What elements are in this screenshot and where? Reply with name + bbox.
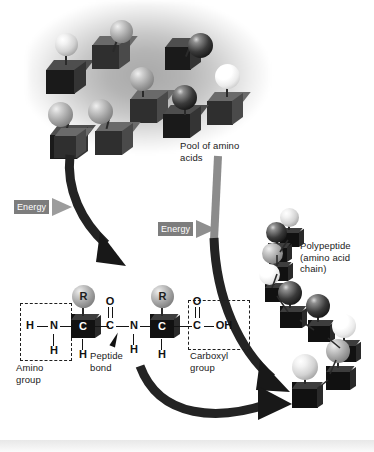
side-chain-sphere — [110, 20, 133, 43]
amino-acid-cube — [46, 60, 86, 94]
chain-cube — [326, 366, 350, 390]
chain-sphere — [332, 314, 356, 338]
carboxyl-oxygen: O — [191, 296, 203, 307]
pool-label: Pool of amino acids — [180, 140, 266, 163]
arrow-pool-to-chain-head — [256, 360, 290, 392]
chain-sphere — [306, 294, 330, 318]
bond-h-n — [37, 326, 48, 327]
amino-h-left: H — [24, 320, 36, 331]
side-chain-sphere — [172, 85, 197, 110]
carbonyl-oxygen: O — [104, 296, 116, 307]
carboxyl-group-label: Carboxyl group — [190, 350, 248, 373]
side-chain-sphere — [48, 102, 73, 127]
pool-unit — [163, 105, 201, 138]
alpha-h-1: H — [77, 349, 89, 360]
amino-acid-cube — [95, 122, 133, 155]
chain-cube — [280, 306, 302, 328]
arrow-pool-to-molecule — [69, 155, 106, 244]
amino-group-label: Amino group — [16, 362, 66, 385]
arrow-molecule-to-chain — [140, 366, 268, 413]
chain-sphere — [326, 339, 350, 363]
double-bond-b-2 — [199, 307, 200, 318]
chain-sphere — [266, 222, 287, 243]
bond-calpha-ccarboxyl — [174, 326, 192, 327]
pool-unit — [46, 60, 86, 94]
polypeptide-label: Polypeptide (amino acid chain) — [300, 240, 374, 275]
side-chain-sphere — [88, 99, 113, 124]
carbonyl-carbon: C — [104, 320, 116, 331]
pool-unit — [54, 128, 86, 158]
double-bond-b-1 — [112, 307, 113, 318]
energy-arrow-right — [196, 220, 216, 238]
footer-band — [0, 440, 374, 452]
arrow-pool-to-molecule-head — [96, 232, 126, 266]
peptide-bond-pointer — [109, 331, 120, 347]
pool-unit — [95, 122, 133, 155]
carboxyl-hydroxyl: OH — [213, 320, 235, 331]
arrow-molecule-to-chain-head — [258, 386, 292, 420]
alpha-carbon-label-1: C — [73, 321, 93, 332]
peptide-nitrogen: N — [128, 320, 140, 331]
side-chain-sphere — [55, 33, 78, 56]
r-group-label-1: R — [73, 291, 94, 302]
chain-sphere — [278, 281, 302, 305]
side-chain-sphere — [130, 67, 154, 91]
amino-h-bottom: H — [48, 345, 60, 356]
amino-acid-cube — [207, 92, 243, 125]
chain-cube — [308, 320, 330, 342]
chain-sphere — [262, 243, 283, 264]
arrow-pool-to-chain-upper — [214, 156, 218, 240]
pool-unit — [207, 92, 243, 125]
double-bond-a-1 — [108, 307, 109, 318]
side-chain-sphere — [188, 33, 213, 58]
amino-acid-cube — [54, 128, 86, 158]
chain-sphere — [292, 354, 318, 380]
alpha-h-2: H — [156, 349, 168, 360]
r-group-label-2: R — [152, 291, 173, 302]
energy-arrow-left — [52, 198, 72, 216]
carboxyl-carbon: C — [191, 320, 203, 331]
amino-nitrogen: N — [48, 320, 60, 331]
double-bond-a-2 — [195, 307, 196, 318]
energy-label-right: Energy — [158, 222, 193, 236]
amino-acid-cube — [163, 105, 201, 138]
peptide-bond-label: Peptide bond — [90, 350, 138, 373]
alpha-carbon-label-2: C — [152, 321, 172, 332]
energy-label-left: Energy — [14, 200, 49, 214]
chain-cube — [292, 382, 318, 408]
side-chain-sphere — [215, 64, 240, 89]
chain-sphere — [259, 264, 280, 285]
amino-group-box — [20, 303, 72, 361]
diagram-canvas: Pool of amino acids Polypeptide (amino a… — [0, 0, 374, 452]
